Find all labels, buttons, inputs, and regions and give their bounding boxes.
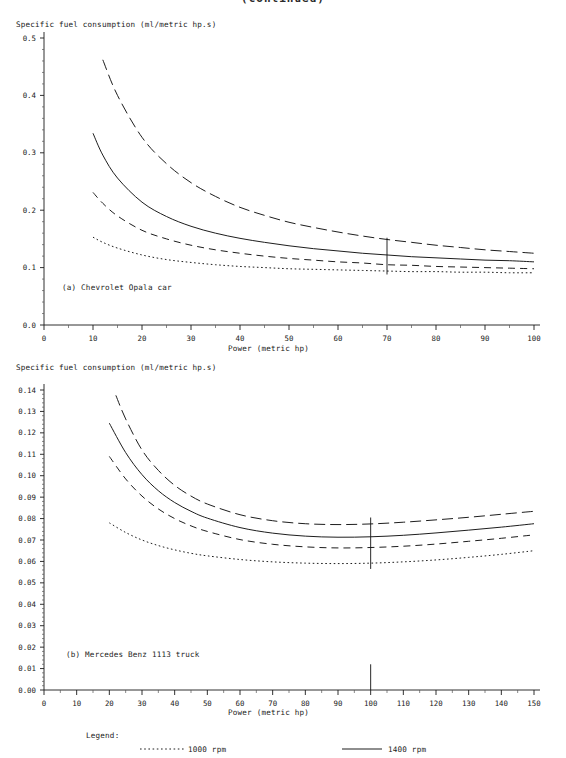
legend-lines xyxy=(0,0,566,758)
figure-root: (continued) Specific fuel consumption (m… xyxy=(0,0,566,758)
legend-item-1400rpm: 1400 rpm xyxy=(388,745,426,754)
legend-item-1000rpm: 1000 rpm xyxy=(188,745,226,754)
